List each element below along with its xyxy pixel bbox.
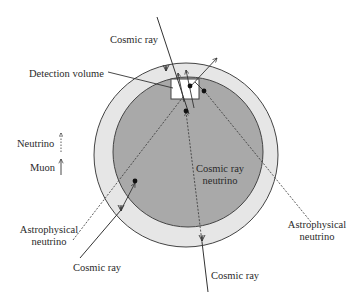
label-line: Astrophysical bbox=[284, 219, 350, 231]
interaction-dot bbox=[184, 109, 189, 114]
label-detection-volume: Detection volume bbox=[29, 68, 104, 80]
label-cosmic-ray-top: Cosmic ray bbox=[110, 34, 158, 46]
legend-muon-label: Muon bbox=[30, 162, 55, 174]
cosmic-ray-lower-left-track bbox=[80, 210, 121, 258]
interaction-dot bbox=[133, 179, 138, 184]
legend-neutrino-label: Neutrino bbox=[17, 138, 54, 150]
interaction-dot bbox=[202, 89, 207, 94]
label-line: neutrino bbox=[190, 175, 250, 187]
label-line: Astrophysical bbox=[16, 224, 82, 236]
label-astro-neutrino-left: Astrophysical neutrino bbox=[16, 224, 82, 248]
label-cosmic-ray-neutrino: Cosmic ray neutrino bbox=[190, 163, 250, 187]
label-line: Cosmic ray bbox=[190, 163, 250, 175]
label-astro-neutrino-right: Astrophysical neutrino bbox=[284, 219, 350, 243]
diagram-canvas bbox=[0, 0, 362, 304]
label-cosmic-ray-bottom: Cosmic ray bbox=[211, 270, 259, 282]
label-cosmic-ray-lower-left: Cosmic ray bbox=[73, 262, 121, 274]
label-line: neutrino bbox=[284, 231, 350, 243]
interaction-dot bbox=[188, 84, 193, 89]
cosmic-ray-bottom-track bbox=[202, 242, 208, 292]
label-line: neutrino bbox=[16, 236, 82, 248]
